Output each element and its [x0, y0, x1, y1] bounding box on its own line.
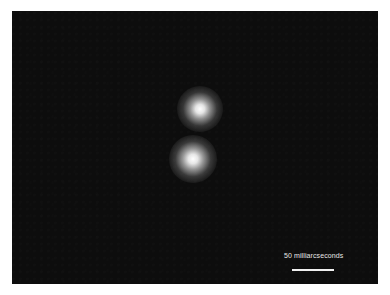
- astronomical-image: 50 milliarcseconds: [12, 11, 378, 284]
- scale-bar: [292, 269, 334, 271]
- scale-label: 50 milliarcseconds: [284, 252, 343, 259]
- star-upper: [177, 86, 223, 132]
- star-lower: [169, 135, 217, 183]
